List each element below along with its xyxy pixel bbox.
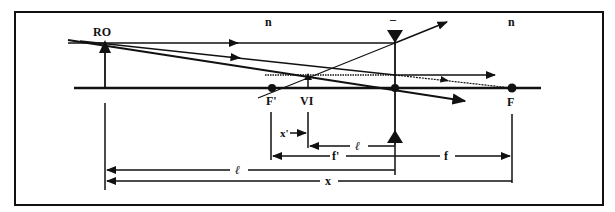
label-lens-sign: – [389, 12, 397, 26]
label-dim-x: x [325, 174, 331, 188]
dimension-lines [105, 103, 512, 190]
label-dim-x-prime: x' [280, 127, 289, 139]
label-dim-f: f [444, 149, 449, 163]
diagram-frame [15, 12, 603, 205]
label-medium-right: n [508, 15, 515, 29]
label-dim-f-prime: f' [332, 149, 339, 163]
label-virtual-image: VI [300, 94, 314, 108]
label-real-object: RO [93, 25, 111, 39]
label-medium-left: n [265, 15, 272, 29]
label-image-focal: F [507, 95, 514, 109]
optics-diagram: RO n n – F' VI F x' ℓ f' f ℓ x [0, 0, 615, 212]
label-object-focal: F' [266, 94, 277, 108]
label-dim-l-short: ℓ [355, 139, 360, 153]
label-dim-l-long: ℓ [235, 163, 240, 177]
